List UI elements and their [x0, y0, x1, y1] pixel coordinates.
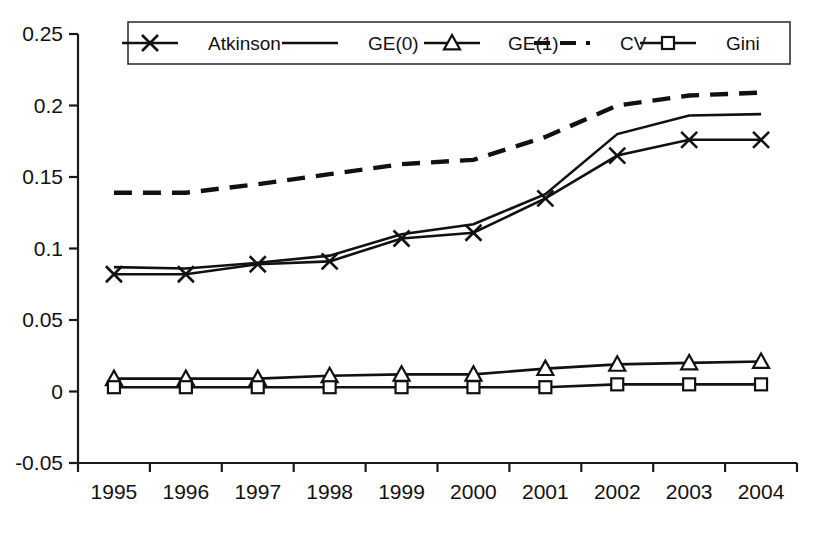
- x-tick-label: 2001: [522, 480, 569, 503]
- data-point-marker: [180, 381, 192, 393]
- data-point-marker: [396, 381, 408, 393]
- chart-canvas: -0.0500.050.10.150.20.25 199519961997199…: [0, 0, 818, 538]
- series-cv: [114, 93, 761, 193]
- y-tick-label: 0.2: [34, 94, 63, 117]
- data-point-marker: [683, 378, 695, 390]
- series-ge1: [106, 353, 769, 385]
- legend-item-label: GE(0): [368, 33, 419, 54]
- series-gini: [108, 378, 767, 393]
- data-point-marker: [755, 378, 767, 390]
- x-tick-label: 1997: [234, 480, 281, 503]
- series-path: [114, 361, 761, 378]
- y-tick-labels: -0.0500.050.10.150.20.25: [15, 22, 63, 474]
- data-point-marker: [539, 381, 551, 393]
- legend-marker-square-icon: [662, 37, 674, 49]
- inequality-indices-line-chart: -0.0500.050.10.150.20.25 199519961997199…: [0, 0, 818, 538]
- x-tick-label: 1998: [306, 480, 353, 503]
- series-path: [114, 93, 761, 193]
- x-tick-label: 2003: [666, 480, 713, 503]
- y-axis: -0.0500.050.10.150.20.25: [15, 22, 78, 474]
- x-tick-label: 2004: [738, 480, 785, 503]
- data-point-marker: [252, 381, 264, 393]
- legend-item-label: Gini: [726, 33, 760, 54]
- y-tick-marks: [69, 34, 78, 463]
- y-tick-label: 0: [51, 380, 63, 403]
- y-tick-label: 0.1: [34, 237, 63, 260]
- data-point-marker: [611, 378, 623, 390]
- series-atkinson: [106, 132, 769, 282]
- chart-legend: AtkinsonGE(0)GE(1)CVGini: [122, 22, 790, 64]
- x-tick-label: 1995: [91, 480, 138, 503]
- y-tick-label: 0.05: [22, 308, 63, 331]
- x-tick-marks: [78, 463, 797, 472]
- y-tick-label: -0.05: [15, 451, 63, 474]
- data-point-marker: [324, 381, 336, 393]
- x-tick-label: 1999: [378, 480, 425, 503]
- x-tick-labels: 1995199619971998199920002001200220032004: [91, 480, 785, 503]
- y-tick-label: 0.25: [22, 22, 63, 45]
- y-tick-label: 0.15: [22, 165, 63, 188]
- x-tick-label: 1996: [162, 480, 209, 503]
- data-point-marker: [467, 381, 479, 393]
- x-tick-label: 2000: [450, 480, 497, 503]
- x-axis: 1995199619971998199920002001200220032004: [78, 463, 797, 503]
- data-point-marker: [108, 381, 120, 393]
- legend-item-label: GE(1): [508, 33, 559, 54]
- series-path: [114, 384, 761, 387]
- legend-item-label: Atkinson: [208, 33, 281, 54]
- x-tick-label: 2002: [594, 480, 641, 503]
- series-layer: [106, 93, 769, 394]
